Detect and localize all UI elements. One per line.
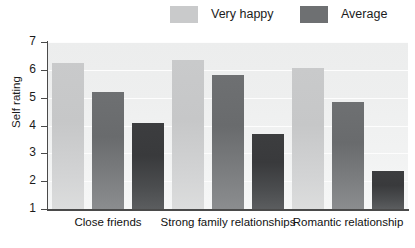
bar [292, 68, 324, 209]
bar [132, 123, 164, 209]
chart-legend: Very happy Average [0, 6, 415, 32]
y-axis-tick-label: 2 [10, 173, 36, 187]
y-axis-tick-label: 6 [10, 62, 36, 76]
y-axis-tick-label: 7 [10, 34, 36, 48]
y-axis-tick [41, 98, 48, 99]
y-axis-tick [41, 209, 48, 210]
bar [252, 134, 284, 209]
gridline [48, 70, 408, 71]
y-axis-tick-label: 3 [10, 145, 36, 159]
y-axis-tick [41, 42, 48, 43]
bar [92, 92, 124, 209]
bar-chart: Very happy Average Self rating 1234567 C… [0, 0, 415, 248]
legend-label-average: Average [341, 6, 387, 23]
bar [52, 63, 84, 209]
bar [332, 102, 364, 209]
y-axis-tick [41, 181, 48, 182]
legend-label-very-happy: Very happy [211, 6, 274, 23]
y-axis-tick [41, 70, 48, 71]
legend-item-very-happy: Very happy [170, 6, 274, 23]
gridline [48, 42, 408, 43]
legend-item-average: Average [300, 6, 387, 23]
x-axis-category-label: Strong family relationships [158, 216, 298, 230]
legend-swatch-very-happy [170, 6, 198, 23]
legend-swatch-average [300, 6, 328, 23]
x-axis-category-label: Romantic relationship [278, 216, 415, 230]
bar [172, 60, 204, 209]
y-axis-tick [41, 126, 48, 127]
y-axis-tick-label: 1 [10, 201, 36, 215]
y-axis-tick-label: 4 [10, 118, 36, 132]
y-axis-tick-label: 5 [10, 90, 36, 104]
x-axis-category-label: Close friends [38, 216, 178, 230]
y-axis-tick [41, 153, 48, 154]
bar [212, 75, 244, 209]
bar [372, 171, 404, 209]
plot-area [48, 42, 408, 209]
x-axis-line [47, 209, 409, 211]
